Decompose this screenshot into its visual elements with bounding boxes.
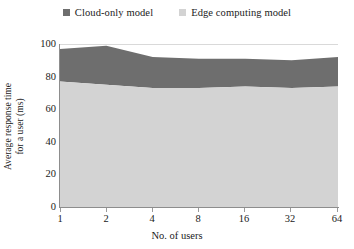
plot-area: [60, 44, 338, 207]
x-tick-label: 2: [103, 213, 108, 224]
y-tick-label: 0: [30, 202, 56, 213]
x-tick-label: 1: [57, 213, 62, 224]
x-tick-mark: [198, 208, 199, 212]
y-axis-line: [59, 44, 60, 208]
x-tick-label: 64: [332, 213, 343, 224]
x-tick-mark: [290, 208, 291, 212]
legend-item-cloud-only[interactable]: Cloud-only model: [63, 7, 153, 18]
x-tick-mark: [244, 208, 245, 212]
x-axis-line: [59, 207, 339, 208]
x-tick-label: 4: [149, 213, 154, 224]
square-swatch-icon: [179, 9, 186, 16]
x-tick-label: 8: [195, 213, 200, 224]
y-tick-label: 20: [30, 169, 56, 180]
area-chart-svg: [60, 44, 338, 207]
area-series-cloud-only: [60, 46, 338, 88]
legend-item-edge-computing[interactable]: Edge computing model: [179, 7, 291, 18]
x-tick-mark: [337, 208, 338, 212]
x-tick-label: 16: [239, 213, 250, 224]
y-axis-title-line1: Average response time: [3, 82, 15, 169]
y-axis-title: Average response time for a user (ms): [0, 44, 28, 208]
x-tick-mark: [152, 208, 153, 212]
y-axis-title-line2: for a user (ms): [14, 82, 26, 169]
x-axis-title: No. of users: [0, 230, 354, 241]
legend-label-cloud-only: Cloud-only model: [75, 7, 153, 18]
y-tick-label: 40: [30, 137, 56, 148]
x-tick-mark: [60, 208, 61, 212]
y-tick-label: 60: [30, 104, 56, 115]
y-axis-tick-labels: 100 80 60 40 20 0: [28, 0, 56, 249]
chart-container: Cloud-only model Edge computing model Av…: [0, 0, 354, 249]
square-swatch-icon: [63, 9, 70, 16]
y-tick-label: 100: [30, 39, 56, 50]
x-tick-label: 32: [285, 213, 296, 224]
y-tick-label: 80: [30, 71, 56, 82]
x-tick-mark: [106, 208, 107, 212]
legend-label-edge-computing: Edge computing model: [191, 7, 291, 18]
area-series-edge-computing: [60, 81, 338, 207]
